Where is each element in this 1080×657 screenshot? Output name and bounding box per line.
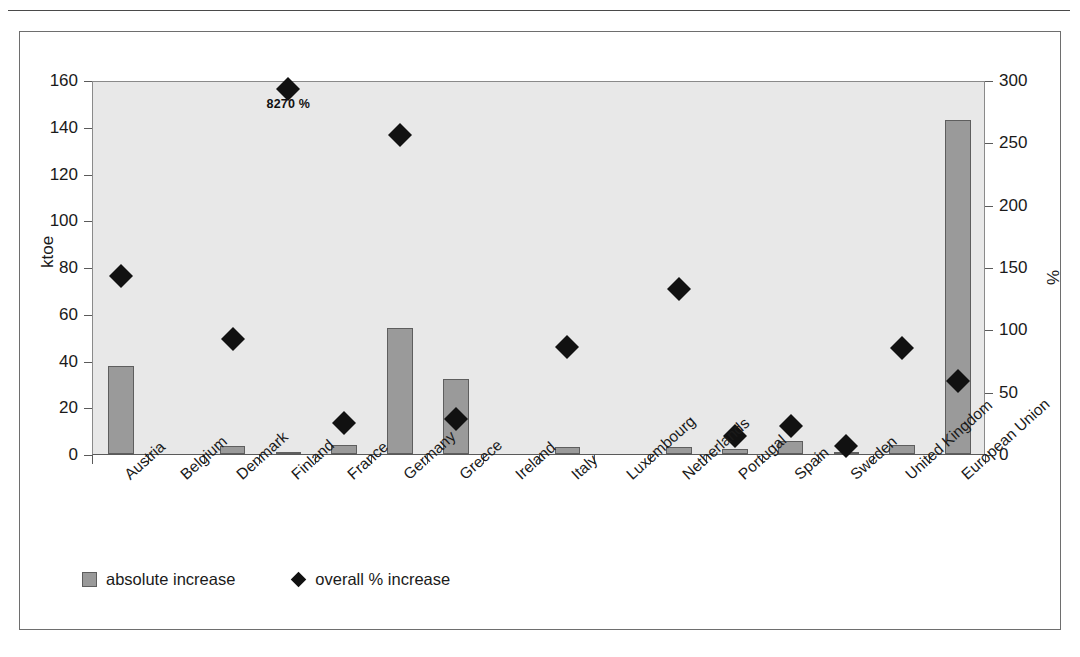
left-axis-tick-label: 160 bbox=[50, 71, 78, 91]
right-axis-tick bbox=[985, 393, 993, 394]
left-axis-tick bbox=[84, 81, 92, 82]
right-axis-tick bbox=[985, 268, 993, 269]
chart-legend: absolute increase overall % increase bbox=[82, 570, 450, 589]
right-axis-tick bbox=[985, 81, 993, 82]
plot-area: 8270 % bbox=[92, 81, 985, 455]
left-axis-tick bbox=[84, 128, 92, 129]
left-axis-tick-label: 60 bbox=[59, 305, 78, 325]
left-axis-tick bbox=[84, 268, 92, 269]
marker-netherlands bbox=[667, 277, 691, 301]
point-annotation-finland: 8270 % bbox=[267, 97, 311, 111]
marker-austria bbox=[109, 263, 133, 287]
left-axis-tick bbox=[84, 175, 92, 176]
legend-label-absolute-increase: absolute increase bbox=[106, 570, 235, 589]
marker-european-union bbox=[946, 369, 970, 393]
left-axis-tick-label: 40 bbox=[59, 352, 78, 372]
right-axis-tick-label: 250 bbox=[999, 133, 1027, 153]
left-axis-tick bbox=[84, 455, 92, 456]
left-axis-tick-label: 140 bbox=[50, 118, 78, 138]
marker-italy bbox=[555, 335, 579, 359]
left-axis-tick-label: 120 bbox=[50, 165, 78, 185]
left-axis-tick bbox=[84, 408, 92, 409]
right-axis-tick-label: 50 bbox=[999, 383, 1018, 403]
right-axis-tick-label: 150 bbox=[999, 258, 1027, 278]
marker-france bbox=[332, 411, 356, 435]
right-axis-tick-label: 200 bbox=[999, 196, 1027, 216]
figure-page: ktoe % 8270 % 02040608010012014016005010… bbox=[0, 0, 1080, 657]
bar-swatch-icon bbox=[82, 572, 97, 587]
page-top-rule bbox=[8, 10, 1070, 11]
left-axis-tick-label: 80 bbox=[59, 258, 78, 278]
left-axis-tick bbox=[84, 221, 92, 222]
legend-item-absolute-increase[interactable]: absolute increase bbox=[82, 570, 235, 589]
left-axis-tick bbox=[84, 362, 92, 363]
left-axis-tick-label: 100 bbox=[50, 211, 78, 231]
x-axis-tick bbox=[92, 455, 93, 464]
left-axis-tick bbox=[84, 315, 92, 316]
right-axis-tick-label: 300 bbox=[999, 71, 1027, 91]
marker-united-kingdom bbox=[890, 336, 914, 360]
marker-denmark bbox=[221, 327, 245, 351]
points-layer: 8270 % bbox=[93, 82, 984, 454]
legend-label-overall-percent-increase: overall % increase bbox=[315, 570, 450, 589]
legend-item-overall-percent-increase[interactable]: overall % increase bbox=[291, 570, 450, 589]
marker-germany bbox=[388, 123, 412, 147]
marker-spain bbox=[779, 414, 803, 438]
right-axis-title: % bbox=[1044, 270, 1064, 285]
right-axis-tick bbox=[985, 143, 993, 144]
diamond-swatch-icon bbox=[291, 572, 307, 588]
left-axis-tick-label: 0 bbox=[69, 445, 78, 465]
right-axis-tick-label: 100 bbox=[999, 320, 1027, 340]
right-axis-tick bbox=[985, 330, 993, 331]
left-axis-tick-label: 20 bbox=[59, 398, 78, 418]
marker-sweden bbox=[834, 434, 858, 458]
left-axis-title: ktoe bbox=[38, 236, 58, 268]
right-axis-tick bbox=[985, 206, 993, 207]
